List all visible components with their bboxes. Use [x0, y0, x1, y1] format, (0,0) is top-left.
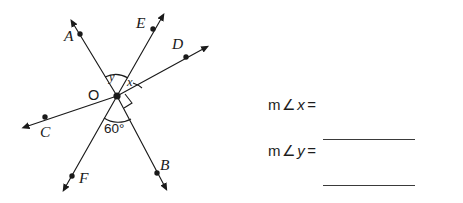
label-angle-x: x	[126, 75, 133, 89]
point-dot-F	[69, 173, 74, 178]
point-dot-E	[150, 26, 155, 31]
variable-y: y	[296, 142, 307, 159]
answer-label-y: m∠y=	[268, 142, 316, 160]
measure-prefix-x: m	[268, 96, 281, 113]
variable-x: x	[296, 96, 307, 113]
worksheet-page: A B C D E F O y x 60° m∠x= m∠y=	[0, 0, 463, 203]
answer-input-x[interactable]	[323, 138, 415, 140]
angle-symbol-y: ∠	[281, 142, 296, 159]
line-CD	[28, 49, 203, 126]
angle-arc-x	[133, 83, 142, 88]
label-angle-60: 60°	[104, 121, 124, 136]
vertex-dot-O	[113, 92, 120, 99]
label-vertex-O: O	[88, 87, 99, 103]
point-dot-B	[154, 170, 159, 175]
label-point-D: D	[171, 35, 183, 52]
label-angle-y: y	[107, 70, 115, 84]
line-AB	[74, 25, 164, 185]
label-point-B: B	[160, 156, 170, 173]
equals-sign-x: =	[307, 96, 316, 113]
equals-sign-y: =	[307, 142, 316, 159]
right-angle-marker	[124, 94, 132, 108]
label-point-E: E	[135, 14, 146, 31]
answer-blanks-section: m∠x= m∠y=	[268, 96, 463, 188]
measure-prefix-y: m	[268, 142, 281, 159]
label-point-F: F	[78, 169, 89, 186]
angle-symbol-x: ∠	[281, 96, 296, 113]
label-point-C: C	[40, 123, 51, 140]
label-point-A: A	[63, 27, 74, 44]
geometry-figure: A B C D E F O y x 60°	[0, 0, 230, 203]
ray-OF	[66, 96, 117, 186]
point-dot-A	[77, 31, 82, 36]
answer-input-y[interactable]	[323, 184, 415, 186]
answer-row-y: m∠y=	[268, 142, 463, 188]
point-dot-C	[42, 114, 47, 119]
answer-label-x: m∠x=	[268, 96, 316, 114]
answer-row-x: m∠x=	[268, 96, 463, 142]
point-dot-D	[183, 54, 188, 59]
line-EF	[66, 19, 161, 186]
